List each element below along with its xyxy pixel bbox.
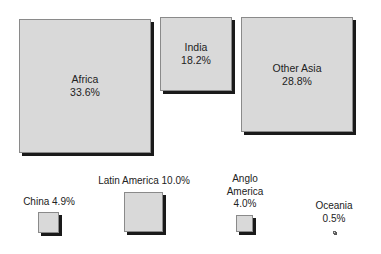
square-anglo-america	[236, 215, 253, 232]
label-india: India 18.2%	[161, 41, 231, 67]
square-oceania	[333, 231, 336, 234]
square-latin-america	[124, 192, 163, 232]
label-china: China 4.9%	[14, 196, 84, 209]
square-africa: Africa 33.6%	[19, 19, 151, 153]
label-africa: Africa 33.6%	[20, 73, 150, 99]
label-latin-america: Latin America 10.0%	[89, 175, 199, 188]
square-china	[38, 212, 59, 233]
label-anglo-america: Anglo America 4.0%	[214, 173, 276, 211]
square-india: India 18.2%	[160, 17, 232, 91]
square-other-asia: Other Asia 28.8%	[241, 17, 353, 132]
label-other-asia: Other Asia 28.8%	[242, 62, 352, 88]
label-oceania: Oceania 0.5%	[304, 200, 364, 225]
